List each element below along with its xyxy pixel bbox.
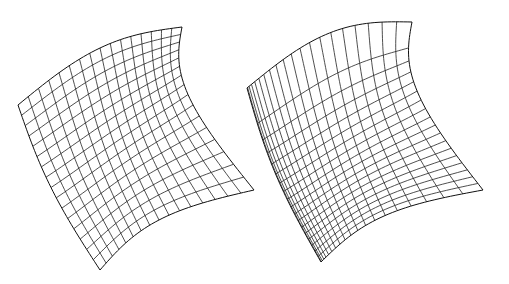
grid-line-v — [100, 190, 254, 270]
grid-line-v — [257, 48, 408, 124]
grid-line-v — [267, 72, 411, 153]
grid-line-u — [343, 28, 398, 210]
grid-line-u — [259, 78, 329, 254]
grid-line-u — [69, 66, 133, 237]
grid-line-u — [28, 97, 106, 263]
grid-line-u — [179, 27, 254, 190]
figure-canvas — [0, 0, 509, 284]
grid-line-v — [263, 61, 409, 140]
grid-line-u — [110, 43, 169, 215]
right-surface-wireframe — [247, 22, 483, 262]
left-surface-wireframe — [18, 27, 254, 270]
grid-line-v — [283, 109, 425, 192]
grid-line-u — [255, 82, 326, 257]
grid-line-v — [18, 27, 182, 105]
grid-line-v — [318, 183, 478, 256]
grid-line-u — [396, 22, 463, 194]
grid-line-v — [315, 177, 473, 251]
grid-line-u — [161, 30, 228, 196]
grid-line-v — [41, 75, 181, 167]
grid-line-v — [305, 156, 457, 234]
grid-line-v — [22, 34, 181, 115]
grid-line-u — [408, 22, 483, 190]
grid-line-u — [170, 28, 241, 193]
